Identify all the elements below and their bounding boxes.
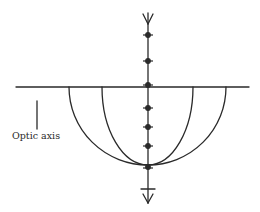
axis-dot-2 xyxy=(143,59,153,64)
axis-dot-5 xyxy=(143,125,153,130)
axis-dot-1 xyxy=(143,33,153,38)
optic-axis-diagram xyxy=(0,0,260,212)
axis-dot-6 xyxy=(143,144,153,149)
axis-dot-4 xyxy=(143,106,153,111)
optic-axis-label: Optic axis xyxy=(12,130,60,141)
